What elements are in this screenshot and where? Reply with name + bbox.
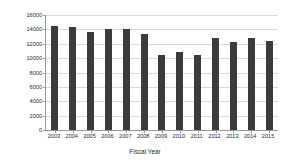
bar: [176, 52, 183, 130]
y-axis-tick-mark: [43, 29, 46, 30]
x-axis-tick-label: 2014: [241, 132, 259, 144]
bar: [51, 26, 58, 130]
bar-chart: R&D Budget - NASA 1600014000120001000080…: [0, 0, 290, 164]
y-axis-tick-label: 4000: [16, 98, 42, 104]
y-axis-tick-labels: 1600014000120001000080006000400020000: [16, 0, 42, 164]
x-axis-tick-label: 2004: [63, 132, 81, 144]
bar: [212, 38, 219, 130]
bar-slot: [135, 15, 153, 130]
x-axis-title: Fiscal Year: [0, 148, 290, 155]
x-axis-tick-label: 2005: [81, 132, 99, 144]
bar-slot: [171, 15, 189, 130]
y-axis-tick-label: 0: [16, 127, 42, 133]
y-axis-tick-mark: [43, 58, 46, 59]
y-axis-tick-label: 10000: [16, 55, 42, 61]
bar-slot: [117, 15, 135, 130]
x-axis-tick-label: 2010: [170, 132, 188, 144]
bar-slot: [100, 15, 118, 130]
y-axis-tick-mark: [43, 15, 46, 16]
bar-slot: [242, 15, 260, 130]
y-axis-tick-label: 12000: [16, 41, 42, 47]
x-axis-tick-label: 2003: [45, 132, 63, 144]
bar: [105, 29, 112, 130]
y-axis-tick-mark: [43, 101, 46, 102]
bar: [266, 41, 273, 130]
x-axis-tick-label: 2009: [152, 132, 170, 144]
y-axis-tick-mark: [43, 116, 46, 117]
bar: [69, 27, 76, 130]
bar-slot: [46, 15, 64, 130]
y-axis-tick-mark: [43, 44, 46, 45]
x-axis-tick-labels: 2003200420052006200720082009201020112012…: [45, 132, 277, 144]
y-axis-tick-mark: [43, 87, 46, 88]
y-axis-tick-mark: [43, 130, 46, 131]
y-axis-tick-mark: [43, 73, 46, 74]
bar-slot: [153, 15, 171, 130]
y-axis-tick-label: 14000: [16, 26, 42, 32]
bar-slot: [189, 15, 207, 130]
bar-slot: [64, 15, 82, 130]
bar: [87, 32, 94, 130]
x-axis-tick-label: 2015: [259, 132, 277, 144]
bar-slot: [82, 15, 100, 130]
bar-slot: [207, 15, 225, 130]
bar: [123, 29, 130, 130]
x-axis-tick-label: 2013: [223, 132, 241, 144]
y-axis-tick-label: 16000: [16, 12, 42, 18]
y-axis-tick-label: 8000: [16, 70, 42, 76]
plot-area: [45, 15, 278, 131]
bars-layer: [46, 15, 278, 130]
bar: [248, 38, 255, 130]
bar: [141, 34, 148, 130]
bar-slot: [224, 15, 242, 130]
y-axis-tick-label: 2000: [16, 113, 42, 119]
x-axis-tick-label: 2012: [206, 132, 224, 144]
bar: [194, 55, 201, 130]
x-axis-tick-label: 2011: [188, 132, 206, 144]
bar: [230, 42, 237, 130]
x-axis-tick-label: 2008: [134, 132, 152, 144]
bar-slot: [260, 15, 278, 130]
y-axis-tick-label: 6000: [16, 84, 42, 90]
x-axis-tick-label: 2007: [116, 132, 134, 144]
x-axis-tick-label: 2006: [99, 132, 117, 144]
bar: [158, 55, 165, 130]
